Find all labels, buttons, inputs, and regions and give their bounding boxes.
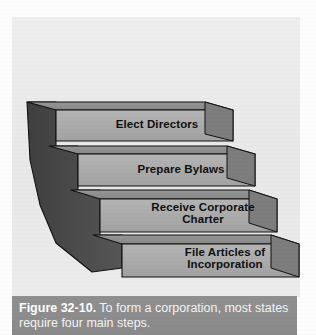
figure-caption-bar: Figure 32-10. To form a corporation, mos… [12, 296, 297, 335]
staircase-diagram [0, 0, 316, 300]
step-2-top-face [49, 146, 255, 154]
step-3-top-face [71, 190, 277, 199]
step-1-top-face [27, 102, 233, 110]
figure-root: Elect Directors Prepare Bylaws Receive C… [0, 0, 316, 335]
step-1-right-face [205, 102, 233, 141]
step-4-top-face [93, 235, 299, 244]
figure-number: Figure 32-10. [19, 301, 96, 315]
